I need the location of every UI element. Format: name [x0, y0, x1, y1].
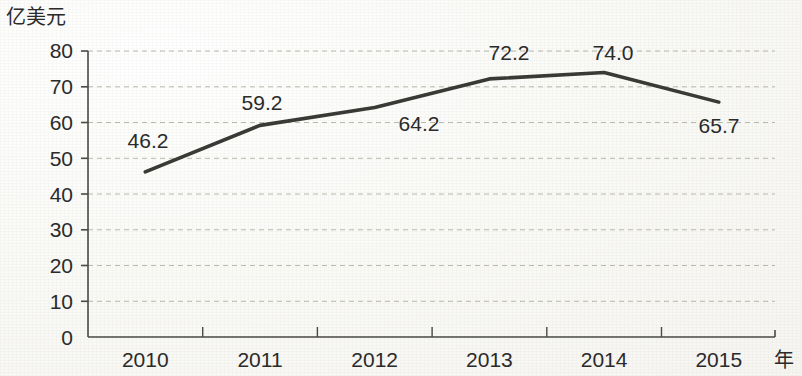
x-tick-label-2014: 2014: [581, 348, 628, 371]
data-label-2014: 74.0: [593, 41, 634, 64]
x-tick-label-2013: 2013: [466, 348, 513, 371]
y-axis-ticks: [81, 51, 88, 301]
data-point-labels: 46.2 59.2 64.2 72.2 74.0 65.7: [128, 41, 740, 152]
y-tick-label-10: 10: [50, 290, 73, 313]
x-tick-label-2015: 2015: [695, 348, 742, 371]
x-axis-unit-label: 年: [774, 348, 794, 372]
line-chart: 亿美元 80 70 60 50 40 30 20 10 0: [0, 0, 802, 376]
y-tick-label-70: 70: [50, 75, 73, 98]
x-axis-tick-labels: 2010 2011 2012 2013 2014 2015: [122, 348, 742, 371]
y-tick-label-30: 30: [50, 218, 73, 241]
y-tick-label-40: 40: [50, 183, 73, 206]
y-tick-label-80: 80: [50, 39, 73, 62]
x-axis-ticks: [203, 327, 662, 337]
y-tick-label-20: 20: [50, 254, 73, 277]
data-label-2012: 64.2: [399, 112, 440, 135]
x-tick-label-2011: 2011: [237, 348, 282, 371]
y-tick-label-60: 60: [50, 111, 73, 134]
x-tick-label-2012: 2012: [351, 348, 398, 371]
x-tick-label-2010: 2010: [122, 348, 169, 371]
data-label-2011: 59.2: [242, 91, 283, 114]
y-tick-label-0: 0: [61, 326, 73, 349]
data-label-2010: 46.2: [128, 129, 169, 152]
y-axis-unit-label: 亿美元: [6, 5, 66, 29]
data-label-2015: 65.7: [699, 114, 740, 137]
y-axis-tick-labels: 80 70 60 50 40 30 20 10 0: [50, 39, 73, 349]
y-tick-label-50: 50: [50, 147, 73, 170]
data-label-2013: 72.2: [489, 41, 530, 64]
